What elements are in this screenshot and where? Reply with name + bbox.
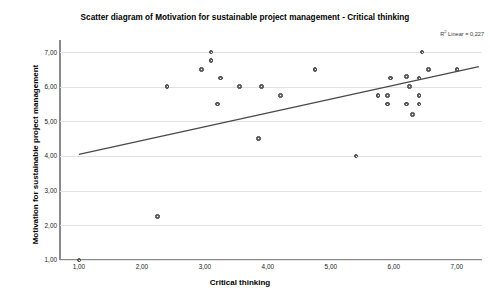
x-tick-label: 7,00: [442, 263, 472, 270]
x-tick-label: 3,00: [190, 263, 220, 270]
data-point: [426, 67, 431, 72]
data-point: [199, 67, 204, 72]
data-point: [77, 258, 82, 263]
data-point: [256, 136, 261, 141]
data-point: [410, 112, 415, 117]
data-point: [376, 93, 381, 98]
data-point: [455, 67, 460, 72]
y-tick-label: 5,00: [29, 118, 57, 125]
plot-area: [60, 40, 482, 260]
r-squared-annotation: R2 Linear = 0,227: [440, 29, 484, 37]
r-squared-value: Linear = 0,227: [447, 31, 484, 37]
chart-title: Scatter diagram of Motivation for sustai…: [0, 13, 490, 22]
data-point: [404, 102, 409, 107]
y-tick-label: 2,00: [29, 222, 57, 229]
x-tick-label: 4,00: [253, 263, 283, 270]
y-tick-label: 7,00: [29, 49, 57, 56]
data-point: [155, 214, 160, 219]
y-tick-label: 6,00: [29, 83, 57, 90]
scatter-chart: Scatter diagram of Motivation for sustai…: [0, 0, 490, 302]
data-point: [215, 102, 220, 107]
gridline: [60, 260, 482, 261]
y-tick-label: 3,00: [29, 187, 57, 194]
x-tick-label: 6,00: [379, 263, 409, 270]
data-point: [407, 84, 412, 89]
x-tick-label: 1,00: [64, 263, 94, 270]
linear-fit-line: [60, 40, 482, 260]
data-point: [404, 74, 409, 79]
data-point: [417, 93, 422, 98]
x-tick-label: 2,00: [127, 263, 157, 270]
data-point: [259, 84, 264, 89]
y-tick-label: 1,00: [29, 256, 57, 263]
data-point: [278, 93, 283, 98]
data-point: [237, 84, 242, 89]
data-point: [385, 93, 390, 98]
x-tick-label: 5,00: [316, 263, 346, 270]
data-point: [313, 67, 318, 72]
x-axis-label: Critical thinking: [60, 278, 420, 287]
y-tick-label: 4,00: [29, 152, 57, 159]
